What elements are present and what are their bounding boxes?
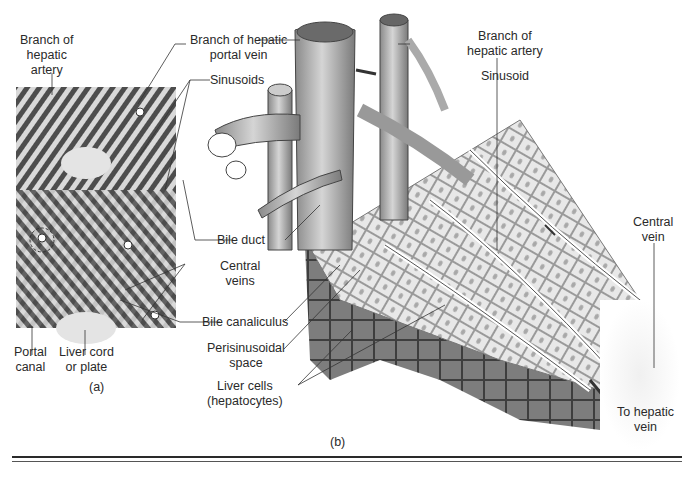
caption-a: (a) (89, 380, 104, 395)
label-line: Branch of (20, 33, 74, 48)
label-liver-cells: Liver cells (hepatocytes) (207, 379, 283, 409)
label-to-hepatic-vein: To hepatic vein (617, 405, 674, 435)
label-central-vein: Central vein (633, 215, 673, 245)
panel-a-histology (16, 87, 176, 344)
label-line: (hepatocytes) (207, 394, 283, 409)
label-line: vein (617, 420, 674, 435)
liver-lobule-illustration (0, 0, 686, 480)
label-line: artery (20, 63, 74, 78)
label-branch-hepatic-artery-a: Branch of hepatic artery (20, 33, 74, 78)
label-line: Liver cells (207, 379, 283, 394)
label-liver-cord: Liver cord or plate (59, 345, 114, 375)
label-line: hepatic (20, 48, 74, 63)
divider-rule-thin (12, 461, 682, 462)
label-line: Portal (14, 345, 47, 360)
label-line: portal vein (190, 48, 287, 63)
label-line: space (207, 356, 285, 371)
caption-b: (b) (330, 435, 345, 450)
label-central-veins: Central veins (220, 259, 260, 289)
divider-rule (12, 456, 682, 458)
label-line: veins (220, 274, 260, 289)
label-line: Liver cord (59, 345, 114, 360)
label-line: Branch of (467, 29, 543, 44)
label-line: or plate (59, 360, 114, 375)
label-line: Perisinusoidal (207, 341, 285, 356)
label-line: Central (220, 259, 260, 274)
label-line: canal (14, 360, 47, 375)
label-sinusoids: Sinusoids (210, 73, 264, 88)
label-bile-duct: Bile duct (217, 233, 265, 248)
label-line: vein (633, 230, 673, 245)
label-line: Central (633, 215, 673, 230)
label-portal-canal: Portal canal (14, 345, 47, 375)
label-line: To hepatic (617, 405, 674, 420)
label-branch-hepatic-artery-b: Branch of hepatic artery (467, 29, 543, 59)
label-line: Branch of hepatic (190, 33, 287, 48)
label-branch-hepatic-portal-vein: Branch of hepatic portal vein (190, 33, 287, 63)
label-sinusoid: Sinusoid (481, 69, 529, 84)
label-bile-canaliculus: Bile canaliculus (202, 315, 288, 330)
label-perisinusoidal-space: Perisinusoidal space (207, 341, 285, 371)
label-line: hepatic artery (467, 44, 543, 59)
